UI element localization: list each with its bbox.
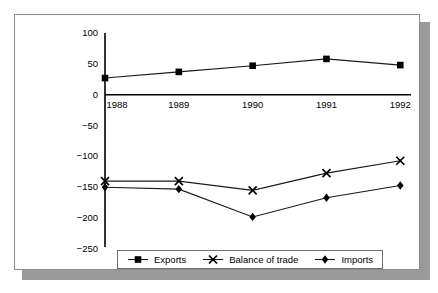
y-axis-tick-label: 100 <box>64 28 98 38</box>
data-point-marker <box>249 213 256 221</box>
series-imports <box>102 181 404 221</box>
x-marker-icon <box>202 254 224 265</box>
legend-entry: Exports <box>127 254 186 265</box>
x-axis-tick-label: 1992 <box>380 100 420 110</box>
x-axis-tick-label: 1988 <box>97 100 137 110</box>
line-chart-svg <box>15 15 421 271</box>
square-marker-icon <box>127 254 149 265</box>
legend-entry: Balance of trade <box>202 254 298 265</box>
y-axis-tick-label: −50 <box>64 121 98 131</box>
data-point-marker <box>397 62 404 69</box>
legend-entry: Imports <box>314 254 373 265</box>
data-point-marker <box>249 62 256 69</box>
y-axis-tick-label: 50 <box>64 59 98 69</box>
data-point-marker <box>176 185 183 193</box>
x-axis-tick-label: 1989 <box>159 100 199 110</box>
data-point-marker <box>323 194 330 202</box>
x-axis-tick-label: 1991 <box>306 100 346 110</box>
legend-label: Exports <box>154 255 186 265</box>
series-line <box>105 161 400 191</box>
plot-area: 100500−50−100−150−200−250 19881989199019… <box>15 15 421 271</box>
figure-panel: 100500−50−100−150−200−250 19881989199019… <box>14 14 420 270</box>
data-point-marker <box>323 56 330 63</box>
legend-label: Balance of trade <box>229 255 298 265</box>
y-axis-tick-label: −150 <box>64 182 98 192</box>
y-axis-tick-label: 0 <box>64 90 98 100</box>
series-exports <box>102 56 404 82</box>
legend-label: Imports <box>341 255 373 265</box>
diamond-marker-icon <box>314 254 336 265</box>
data-point-marker <box>397 181 404 189</box>
data-point-marker <box>102 75 109 82</box>
series-layer <box>101 56 404 221</box>
y-axis-tick-label: −100 <box>64 151 98 161</box>
x-axis-tick-label: 1990 <box>233 100 273 110</box>
data-point-marker <box>176 69 183 76</box>
y-axis-tick-label: −250 <box>64 244 98 254</box>
chart-legend: ExportsBalance of tradeImports <box>117 250 383 269</box>
y-axis-tick-label: −200 <box>64 213 98 223</box>
